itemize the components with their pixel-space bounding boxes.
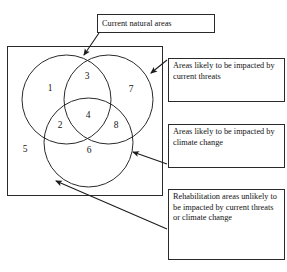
region-label-4: 4 [86, 110, 91, 120]
leader-line-current-threats [151, 60, 167, 73]
universe-rectangle [8, 47, 163, 196]
leader-line-climate-change [133, 152, 167, 164]
region-label-2: 2 [58, 120, 63, 130]
circle-current-threats [22, 55, 111, 144]
venn-diagram-figure: 1 3 7 2 4 8 6 5 Current natural areas Ar… [0, 0, 287, 272]
callout-rehabilitation-areas: Rehabilitation areas unlikely to be impa… [168, 189, 285, 260]
callout-climate-change: Areas likely to be impacted by climate c… [168, 124, 285, 168]
callout-current-threats: Areas likely to be impacted by current t… [168, 58, 285, 102]
region-label-7: 7 [129, 84, 134, 94]
region-label-3: 3 [85, 71, 90, 81]
region-label-8: 8 [114, 120, 119, 130]
leader-line-current-natural-areas [84, 33, 99, 55]
leader-line-rehabilitation [56, 181, 167, 229]
callout-current-natural-areas: Current natural areas [97, 14, 215, 33]
region-label-1: 1 [48, 83, 53, 93]
region-label-5: 5 [23, 144, 28, 154]
region-label-6: 6 [87, 145, 92, 155]
